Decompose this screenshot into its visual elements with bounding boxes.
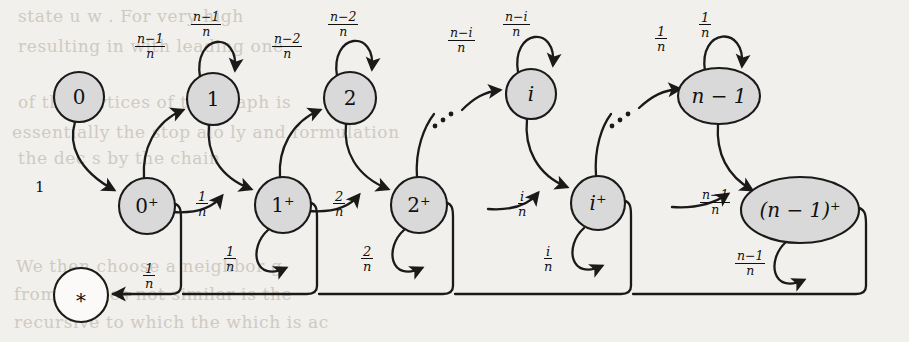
dots-2-dot [618, 118, 623, 123]
state-node-s2[interactable]: 2 [324, 72, 376, 124]
fraction-denominator: n [135, 47, 165, 61]
edge-2-to-2plus [346, 124, 388, 189]
edge-iplus-upward [596, 114, 611, 176]
edge-label-l-n1p-self: n−1n [735, 250, 765, 278]
edge-label-l-dots1-i: n−in [448, 27, 475, 55]
edge-label-l-1p-self: 1n [224, 245, 236, 274]
dots-1-dot [433, 124, 438, 129]
node-label: 1 [207, 87, 220, 111]
edge-label-l-ip-in: in [518, 190, 526, 219]
state-node-s0[interactable]: 0 [54, 72, 104, 122]
fraction-numerator: n−2 [328, 11, 358, 25]
self-loop-2plus [392, 230, 422, 272]
self-loop-1plus [256, 230, 286, 272]
edge-label-l-dots2-n1: 1n [655, 25, 667, 54]
state-node-sstar[interactable]: ∗ [54, 268, 108, 322]
fraction-numerator: n−1 [700, 189, 730, 203]
fraction-numerator: 2 [361, 245, 373, 259]
fraction-denominator: n [735, 264, 765, 278]
fraction-denominator: n [544, 259, 552, 273]
state-node-s1[interactable]: 1 [187, 73, 239, 125]
fraction-numerator: i [544, 245, 552, 259]
fraction-denominator: n [224, 259, 236, 273]
edge-label-l-2-self: n−2n [328, 11, 358, 39]
edge-2plus-upward [417, 114, 434, 177]
node-label: 2 [344, 86, 357, 110]
fraction-denominator: n [191, 25, 221, 39]
dots-1-dot [441, 118, 446, 123]
dots-1-dot [449, 112, 454, 117]
fraction-denominator: n [448, 41, 475, 55]
edge-label-l-1-self: n−1n [191, 11, 221, 39]
node-label: i⁺ [590, 191, 607, 215]
node-label: 1⁺ [271, 193, 294, 217]
fraction-numerator: 1 [143, 262, 155, 276]
edge-label-l-1p-2p: 2n [333, 190, 345, 219]
edge-label-l-n1-self: 1n [699, 11, 711, 40]
self-loop-1 [199, 42, 235, 77]
edge-label-l-0p-1p: 1n [196, 190, 208, 219]
self-loop-i [517, 37, 553, 72]
node-label: n − 1 [691, 84, 746, 108]
state-node-sip[interactable]: i⁺ [571, 176, 625, 230]
dots-2-dot [610, 124, 615, 129]
node-label: 0⁺ [135, 194, 158, 218]
edge-label-l-n1p-in: n−1n [700, 189, 730, 217]
self-loop-2 [336, 41, 372, 76]
edge-label-l-i-self: n−in [503, 11, 530, 39]
edge-2plus-to-iplus [488, 193, 538, 209]
self-loop-nminus1 [704, 37, 742, 71]
fraction-denominator: n [272, 47, 302, 61]
edge-1plus-to-2 [280, 110, 320, 177]
fraction-numerator: n−1 [191, 11, 221, 25]
edge-label-l-0-0p: 1 [35, 178, 45, 196]
state-node-sn1p[interactable]: (n − 1)⁺ [741, 177, 859, 243]
dots-2-dot [626, 112, 631, 117]
fraction-denominator: n [361, 259, 373, 273]
fraction-numerator: n−i [503, 11, 530, 25]
edge-label-l-1p-2: n−2n [272, 33, 302, 61]
state-node-sn1[interactable]: n − 1 [678, 68, 760, 124]
state-node-si[interactable]: i [506, 69, 556, 119]
fraction-denominator: n [503, 25, 530, 39]
fraction-denominator: n [328, 25, 358, 39]
node-label: ∗ [74, 285, 88, 309]
edge-label-l-to-star: 1n [143, 262, 155, 291]
fraction-numerator: n−1 [135, 33, 165, 47]
fraction-numerator: 1 [196, 190, 208, 204]
fraction-numerator: 1 [224, 245, 236, 259]
fraction-denominator: n [700, 203, 730, 217]
fraction-numerator: n−i [448, 27, 475, 41]
edge-label-l-2p-self: 2n [361, 245, 373, 274]
fraction-numerator: i [518, 190, 526, 204]
edge-i-to-iplus [527, 119, 567, 187]
fraction-denominator: n [333, 204, 345, 218]
edge-label-l-0p-1: n−1n [135, 33, 165, 61]
node-label: (n − 1)⁺ [759, 198, 840, 222]
fraction-numerator: n−1 [735, 250, 765, 264]
self-loop-iplus [572, 228, 602, 270]
edge-dots-to-nminus1 [639, 89, 680, 108]
figure-canvas: state u w . For very highresulting in wi… [0, 0, 909, 342]
state-node-s1p[interactable]: 1⁺ [255, 177, 311, 233]
edge-nminus1-to-nminus1plus [718, 124, 752, 190]
edge-0-to-0plus [73, 122, 114, 190]
fraction-numerator: n−2 [272, 33, 302, 47]
edge-1-to-1plus [209, 125, 251, 189]
state-node-s0p[interactable]: 0⁺ [119, 178, 175, 234]
node-label: 0 [73, 85, 86, 109]
node-layer: 012in − 10⁺1⁺2⁺i⁺(n − 1)⁺∗ [54, 68, 859, 322]
edge-label-l-ip-self: in [544, 245, 552, 274]
fraction-denominator: n [196, 204, 208, 218]
node-label: 2⁺ [407, 193, 430, 217]
state-node-s2p[interactable]: 2⁺ [391, 177, 447, 233]
fraction-denominator: n [518, 204, 526, 218]
fraction-denominator: n [143, 276, 155, 290]
self-loop-nminus1plus [774, 242, 804, 284]
fraction-numerator: 1 [655, 25, 667, 39]
fraction-numerator: 2 [333, 190, 345, 204]
fraction-denominator: n [655, 39, 667, 53]
fraction-denominator: n [699, 25, 711, 39]
node-label: i [528, 82, 534, 106]
edge-0plus-to-1 [144, 110, 183, 178]
